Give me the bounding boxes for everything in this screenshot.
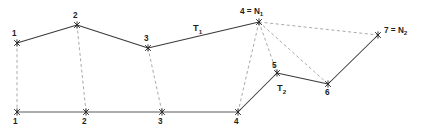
dashed-edge-layer bbox=[17, 22, 378, 112]
node-label-upper-2: 2 bbox=[73, 11, 78, 20]
solid-edge bbox=[328, 35, 378, 84]
node-marker-layer bbox=[14, 19, 380, 115]
dashed-edge bbox=[259, 22, 378, 35]
solid-edge-layer bbox=[17, 22, 378, 112]
node-label-lower-1: 1 bbox=[13, 117, 18, 126]
solid-edge bbox=[238, 73, 277, 112]
node-label-lower-4: 4 bbox=[234, 117, 239, 126]
node-label-lower-2: 2 bbox=[82, 117, 87, 126]
solid-edge bbox=[277, 73, 328, 84]
solid-edge bbox=[148, 22, 259, 48]
node-label-upper-1: 1 bbox=[12, 29, 17, 38]
node-label-upper-4N: 4 = N1 bbox=[240, 7, 264, 17]
solid-edge bbox=[77, 25, 148, 48]
node-label-upper-5: 5 bbox=[272, 61, 277, 70]
node-label-upper-3: 3 bbox=[144, 34, 149, 43]
node-label-upper-6: 6 bbox=[325, 88, 330, 97]
node-label-upper-7N: 7 = N2 bbox=[384, 26, 408, 36]
solid-edge bbox=[17, 25, 77, 43]
dashed-edge bbox=[148, 48, 162, 112]
region-label-T2: T2 bbox=[277, 83, 287, 95]
dashed-edge bbox=[77, 25, 86, 112]
dashed-edge bbox=[259, 22, 328, 84]
node-label-lower-3: 3 bbox=[158, 117, 163, 126]
dashed-edge bbox=[238, 22, 259, 112]
region-label-T1: T1 bbox=[193, 23, 203, 35]
network-diagram: 1234 = N1567 = N21234 T1T2 bbox=[0, 0, 426, 133]
node-label-layer: 1234 = N1567 = N21234 bbox=[12, 7, 408, 126]
diagram-canvas: 1234 = N1567 = N21234 T1T2 bbox=[0, 0, 426, 133]
